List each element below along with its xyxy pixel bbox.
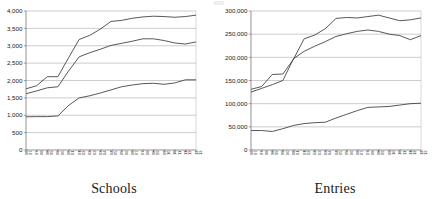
- y-axis-tick-label: 4,000: [7, 7, 23, 14]
- figure-container: 05001,0001,5002,0002,5003,0003,5004,0009…: [0, 0, 435, 199]
- y-axis-tick-label: 3,000: [7, 42, 23, 49]
- x-axis-tick-label: 99-00: [280, 148, 289, 155]
- x-axis-tick-label: 96-97: [249, 148, 258, 155]
- x-axis-tick-label: 10-11: [397, 148, 406, 155]
- x-axis-tick-label: 06-07: [355, 148, 364, 155]
- y-axis-tick-label: 150,000: [225, 77, 248, 84]
- y-axis-tick-label: 250,000: [225, 30, 248, 37]
- y-axis-tick-label: 1,500: [7, 94, 23, 101]
- x-axis-tick-label: 01-02: [302, 148, 311, 155]
- y-axis-tick-label: 100,000: [225, 100, 248, 107]
- x-axis-tick-label: 02-03: [87, 148, 96, 155]
- data-series-line-2: [26, 39, 196, 94]
- data-series-line-3: [251, 103, 421, 131]
- x-axis-tick-label: 11-12: [183, 149, 192, 155]
- x-axis-tick-label: 00-01: [291, 148, 300, 155]
- x-axis-tick-label: 05-06: [344, 148, 353, 155]
- x-axis-tick-label: 04-05: [334, 148, 343, 155]
- chart-panel-entries: 050,000100,000150,000200,000250,000300,0…: [215, 0, 435, 199]
- x-axis-tick-label: 07-08: [140, 148, 149, 155]
- y-axis-tick-label: 2,000: [7, 77, 23, 84]
- x-axis-tick-label: 02-03: [312, 148, 321, 155]
- x-axis-tick-label: 12-13: [419, 148, 428, 155]
- schools-line-chart: 05001,0001,5002,0002,5003,0003,5004,0009…: [0, 0, 210, 175]
- x-axis-tick-label: 99-00: [55, 148, 64, 155]
- x-axis-tick-label: 98-99: [270, 148, 279, 155]
- data-series-line-3: [26, 80, 196, 117]
- x-axis-tick-label: 03-04: [323, 148, 332, 155]
- y-axis-tick-label: 3,500: [7, 25, 23, 32]
- x-axis-tick-label: 08-09: [151, 148, 160, 155]
- y-axis-tick-label: 2,500: [7, 59, 23, 66]
- x-axis-tick-label: 00-01: [66, 148, 75, 155]
- schools-caption: Schools: [0, 181, 210, 197]
- x-axis-tick-label: 09-10: [162, 148, 171, 155]
- y-axis-tick-label: 300,000: [225, 7, 248, 14]
- y-axis-tick-label: 0: [244, 146, 248, 153]
- x-axis-tick-label: 05-06: [119, 148, 128, 155]
- y-axis-tick-label: 50,000: [228, 123, 247, 130]
- x-axis-tick-label: 98-99: [45, 148, 54, 155]
- data-series-line-1: [251, 15, 421, 89]
- data-series-line-1: [26, 15, 196, 89]
- x-axis-tick-label: 03-04: [98, 148, 107, 155]
- y-axis-tick-label: 200,000: [225, 54, 248, 61]
- x-axis-tick-label: 12-13: [194, 148, 203, 155]
- x-axis-tick-label: 06-07: [130, 148, 139, 155]
- x-axis-tick-label: 11-12: [408, 149, 417, 155]
- x-axis-tick-label: 08-09: [376, 148, 385, 155]
- chart-panel-schools: 05001,0001,5002,0002,5003,0003,5004,0009…: [0, 0, 210, 199]
- x-axis-tick-label: 96-97: [24, 148, 33, 155]
- x-axis-tick-label: 01-02: [77, 148, 86, 155]
- data-series-line-2: [251, 30, 421, 92]
- x-axis-tick-label: 07-08: [365, 148, 374, 155]
- entries-caption: Entries: [215, 181, 435, 197]
- x-axis-tick-label: 97-98: [259, 148, 268, 155]
- x-axis-tick-label: 09-10: [387, 148, 396, 155]
- y-axis-tick-label: 0: [19, 146, 23, 153]
- y-axis-tick-label: 1,000: [7, 111, 23, 118]
- entries-line-chart: 050,000100,000150,000200,000250,000300,0…: [215, 0, 435, 175]
- y-axis-tick-label: 500: [12, 129, 23, 136]
- x-axis-tick-label: 97-98: [34, 148, 43, 155]
- x-axis-tick-label: 04-05: [109, 148, 118, 155]
- x-axis-tick-label: 10-11: [172, 148, 181, 155]
